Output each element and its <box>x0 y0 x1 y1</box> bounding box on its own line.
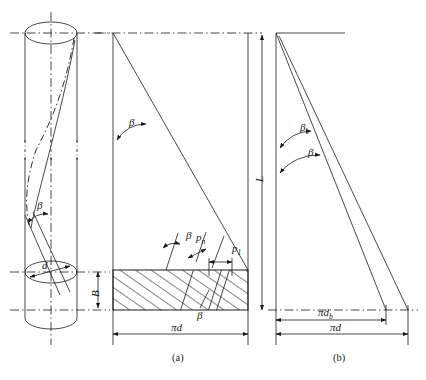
circumference-label-b: πd <box>330 322 341 333</box>
dimension-pn <box>188 232 224 268</box>
beta-b-subscript: b <box>305 127 309 136</box>
circumference-db-label: πdb <box>318 307 333 321</box>
beta-label-cylinder: β <box>37 200 42 211</box>
pitch-axial-label: p1 <box>232 243 241 257</box>
width-label-B: B <box>90 290 101 297</box>
caption-b: (b) <box>333 352 345 363</box>
pitch-normal-subscript: n <box>202 237 206 246</box>
diameter-label-d: d <box>42 260 48 271</box>
diagram-b-frame <box>268 33 418 345</box>
figure-root: β d β β pn p1 β L B πd βb β πdb πd (a) (… <box>0 0 426 380</box>
beta-angle-b-arc <box>280 155 320 173</box>
caption-a: (a) <box>172 352 184 363</box>
beta-angle-cylinder <box>28 214 48 223</box>
beta-label-a-bottom: β <box>197 310 202 321</box>
diameter-dimension-d <box>30 266 70 277</box>
pitch-normal-label: pn <box>196 232 205 246</box>
circumference-db-symbol: πd <box>318 306 329 318</box>
beta-label-a-strip: β <box>186 230 191 241</box>
beta-label-b: β <box>308 147 313 158</box>
circumference-label-a: πd <box>171 322 182 333</box>
beta-b-label: βb <box>300 122 309 136</box>
length-label-L: L <box>254 176 265 182</box>
figure-drawing <box>0 0 426 380</box>
helix-curve <box>27 38 74 228</box>
beta-angle-a-strip <box>163 233 180 270</box>
pitch-axial-subscript: 1 <box>238 248 242 257</box>
beta-label-a-top: β <box>129 117 134 128</box>
circumference-db-subscript: b <box>329 312 333 321</box>
helix-tangent-line <box>25 40 75 295</box>
